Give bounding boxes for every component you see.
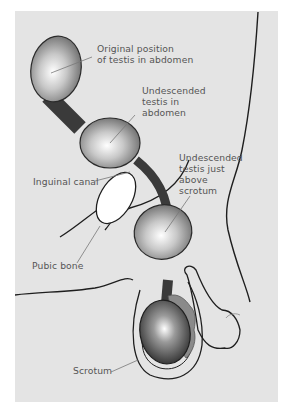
label-original-position: Original position of testis in abdomen [97,43,193,65]
testis-above-scrotum [127,197,200,268]
label-scrotum: Scrotum [73,365,112,376]
label-undescended-above-scrotum: Undescended testis just above scrotum [179,152,243,196]
label-inguinal-canal: Inguinal canal [33,176,99,187]
label-pubic-bone: Pubic bone [32,260,84,271]
label-undescended-abdomen: Undescended testis in abdomen [142,85,206,118]
abdomen-contour [15,279,133,295]
testis-original-position [26,32,87,106]
